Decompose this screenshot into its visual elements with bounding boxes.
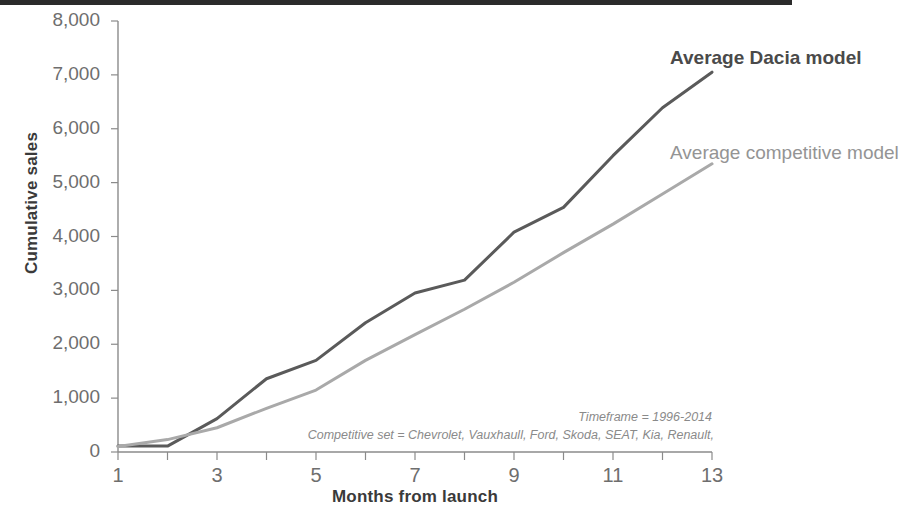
x-axis-title: Months from launch bbox=[118, 487, 712, 507]
y-axis-ticks bbox=[111, 21, 118, 452]
axis-group bbox=[111, 21, 712, 460]
series-label-dacia: Average Dacia model bbox=[670, 45, 800, 72]
y-tick-label: 6,000 bbox=[0, 117, 100, 139]
annotation-competitive-set: Competitive set = Chevrolet, Vauxhaull, … bbox=[240, 428, 714, 442]
annotation-timeframe: Timeframe = 1996-2014 bbox=[300, 410, 712, 424]
x-tick-label: 9 bbox=[474, 464, 554, 487]
x-axis-ticks bbox=[118, 452, 712, 460]
y-tick-label: 0 bbox=[0, 440, 100, 462]
series-group bbox=[118, 72, 712, 446]
x-tick-label: 3 bbox=[177, 464, 257, 487]
series-line-average-competitive-model bbox=[118, 164, 712, 447]
x-tick-label: 13 bbox=[672, 464, 752, 487]
y-tick-label: 1,000 bbox=[0, 386, 100, 408]
series-line-average-dacia-model bbox=[118, 72, 712, 446]
x-tick-label: 1 bbox=[78, 464, 158, 487]
y-tick-label: 7,000 bbox=[0, 63, 100, 85]
y-tick-label: 8,000 bbox=[0, 9, 100, 31]
x-tick-label: 11 bbox=[573, 464, 653, 487]
series-label-competitive: Average competitive model bbox=[670, 140, 800, 167]
y-tick-label: 2,000 bbox=[0, 332, 100, 354]
y-tick-label: 4,000 bbox=[0, 225, 100, 247]
y-tick-label: 5,000 bbox=[0, 171, 100, 193]
y-tick-label: 3,000 bbox=[0, 278, 100, 300]
x-tick-label: 5 bbox=[276, 464, 356, 487]
y-axis-title: Cumulative sales bbox=[22, 108, 42, 298]
x-tick-label: 7 bbox=[375, 464, 455, 487]
